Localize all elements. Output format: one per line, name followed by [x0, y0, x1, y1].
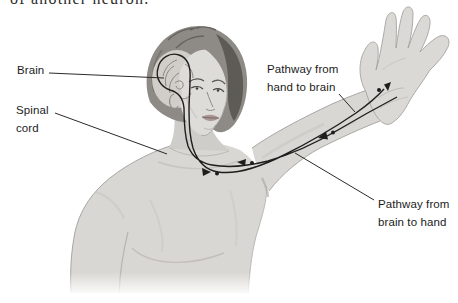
bottom-margin [0, 294, 458, 303]
pathway-brain-to-hand-label: Pathway from brain to hand [378, 195, 450, 231]
anatomy-illustration [0, 0, 458, 303]
hand [360, 7, 449, 124]
bottom-fade [0, 272, 458, 296]
brain-label: Brain [17, 61, 44, 79]
diagram-canvas: of another neuron. [0, 0, 458, 303]
torso [71, 143, 267, 293]
brain-to-hand-leader-line [295, 153, 374, 200]
raised-arm [252, 90, 380, 197]
spinal-cord-leader-line [55, 113, 167, 154]
brain-leader-line [49, 73, 164, 78]
pathway-hand-to-brain-label: Pathway from hand to brain [267, 60, 339, 96]
spinal-cord-label: Spinal cord [16, 101, 49, 137]
